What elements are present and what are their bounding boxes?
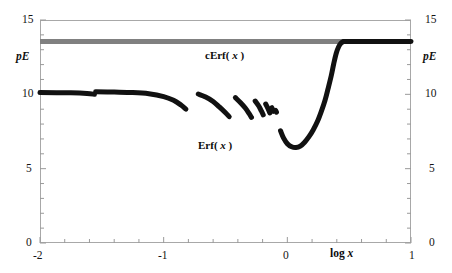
- y-axis-label-right-0: 0: [429, 236, 435, 248]
- series-label-cerf: cErf( x ): [205, 49, 244, 61]
- y-axis-title-left: pE: [16, 50, 29, 62]
- series-label-erf: Erf( x ): [198, 139, 232, 151]
- x-axis-label-0: 0: [283, 249, 289, 261]
- y-axis-label-right-15: 15: [425, 13, 437, 25]
- y-axis-label-left-5: 5: [26, 162, 32, 174]
- y-axis-label-left-0: 0: [26, 236, 32, 248]
- y-axis-title-right: pE: [423, 50, 436, 62]
- y-axis-label-left-10: 10: [22, 87, 34, 99]
- x-axis-title: log x: [330, 247, 353, 259]
- y-axis-label-right-5: 5: [429, 162, 435, 174]
- y-axis-label-right-10: 10: [425, 87, 437, 99]
- x-axis-label-1: 1: [409, 249, 415, 261]
- x-axis-label--1: -1: [158, 249, 168, 261]
- x-axis-label--2: -2: [33, 249, 43, 261]
- y-axis-label-left-15: 15: [22, 13, 34, 25]
- chart-root: 15 pE 10 5 0 15 pE 10 5 0 -2 -1 0 1 log …: [0, 0, 452, 273]
